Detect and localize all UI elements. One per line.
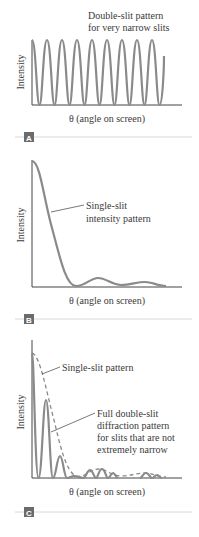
panel-c-ylabel: Intensity: [15, 395, 26, 430]
panel-a-ylabel: Intensity: [15, 55, 26, 90]
panel-b-annotation-line1: Single-slit: [86, 200, 127, 211]
panel-a-annotation-line2: for very narrow slits: [88, 22, 169, 33]
panel-b-leader-line: [51, 205, 84, 212]
panel-a-annotation-line1: Double-slit pattern: [88, 10, 163, 21]
panel-c-annotation-line3: for slits that are not: [97, 432, 175, 443]
panel-b-xlabel: θ (angle on screen): [69, 295, 145, 307]
panel-c-annotation-line4: extremely narrow: [97, 444, 169, 455]
interference-figure: Double-slit pattern for very narrow slit…: [0, 0, 199, 537]
panel-a-xlabel: θ (angle on screen): [69, 113, 145, 125]
panel-b-annotation-line2: intensity pattern: [86, 213, 151, 224]
panel-c-annotation-line2: diffraction pattern: [97, 420, 169, 431]
panel-a: Double-slit pattern for very narrow slit…: [15, 10, 192, 143]
panel-c: Intensity Single-slit pattern Full doubl…: [15, 340, 192, 518]
panel-c-double-leader-line: [51, 413, 95, 432]
panel-a-tag: A: [26, 134, 32, 143]
panel-c-annotation-line1: Full double-slit: [97, 408, 159, 419]
panel-c-single-leader-line: [42, 367, 60, 374]
panel-c-xlabel: θ (angle on screen): [69, 486, 145, 498]
panel-c-tag: C: [26, 509, 32, 518]
panel-b-ylabel: Intensity: [15, 208, 26, 243]
panel-b-tag: B: [26, 316, 32, 325]
panel-c-single-annotation: Single-slit pattern: [62, 362, 133, 373]
panel-a-curve: [32, 40, 164, 105]
panel-b: Intensity Single-slit intensity pattern …: [15, 160, 192, 325]
